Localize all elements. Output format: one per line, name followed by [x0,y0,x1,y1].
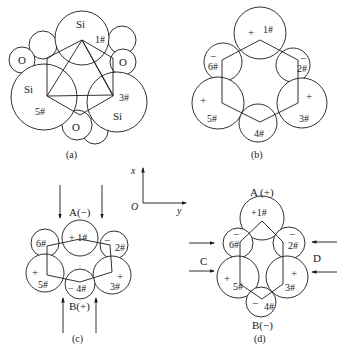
label-1: + 1# [69,232,87,243]
panel-d: A (+) +1# − 6# − 2# C D + 5# + 3# − 4# B… [189,186,337,345]
sign-2: − [289,228,295,240]
panel-c: A(−) + 1# 6# − 2# + 5# + 3# − 4# B(+) (c… [26,185,131,345]
label-1: 1# [263,24,273,35]
label-4: − 4# [68,283,86,294]
label-5: 5# [233,281,243,292]
label-2: 2# [115,242,125,253]
silicon-atom-3 [87,72,147,132]
label-1: 1# [95,34,105,45]
label-si-top: Si [76,18,85,30]
label-5: 5# [38,279,48,290]
label-si-left: Si [24,83,33,95]
label-6: 6# [208,61,218,72]
label-5: 5# [207,113,217,124]
label-si-right: Si [113,110,122,122]
label-3: 3# [119,92,129,103]
sign-5: + [224,272,230,284]
force-label-c: C [200,255,207,267]
label-4: 4# [264,301,274,312]
force-label-d: D [313,252,321,264]
sign-5: + [200,94,206,106]
label-2: 2# [297,63,307,74]
label-4: 4# [254,128,264,139]
x-axis-label: x [130,165,136,176]
sign-3: + [291,267,297,279]
label-o-bottom: O [72,121,80,133]
label-3: 3# [299,113,309,124]
caption-a: (a) [66,149,77,161]
label-6: 6# [36,238,46,249]
label-o-right: O [119,56,127,68]
sign-1: + [248,26,254,38]
label-1: +1# [251,207,267,218]
label-3: 3# [110,281,120,292]
silicon-atom-5 [11,64,77,130]
label-6: 6# [229,239,239,250]
electrode-a-label: A(−) [69,206,91,219]
label-5: 5# [35,106,45,117]
electrode-b-label: B(+) [69,300,90,313]
sign-2: − [104,234,110,246]
sign-3: + [306,90,312,102]
label-o-left: O [18,54,26,66]
label-3: 3# [285,282,295,293]
caption-c: (c) [72,333,83,345]
sign-4: − [252,297,258,309]
coordinate-axes: x O y [130,165,186,216]
panel-b: + 1# − 2# − 6# + 3# + 5# 4# (b) [192,7,327,161]
sign-5: + [32,266,38,278]
quartz-piezo-diagram: Si 1# O O Si 5# 3# Si O (a) + 1# − 2# − … [0,0,345,353]
caption-b: (b) [251,149,263,161]
origin-label: O [131,201,138,212]
electrode-b-label: B(−) [252,319,273,332]
caption-d: (d) [254,333,266,345]
y-axis-label: y [176,205,182,216]
panel-a: Si 1# O O Si 5# 3# Si O (a) [9,11,147,161]
ion-circle-1 [234,7,286,59]
label-2: 2# [288,240,298,251]
electrode-a-label: A (+) [250,186,274,199]
